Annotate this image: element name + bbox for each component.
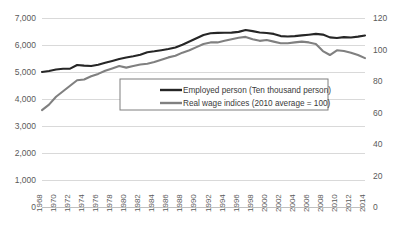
- right-axis-tick-label: 40: [373, 139, 383, 149]
- x-axis-tick-label: 2004: [288, 194, 297, 212]
- left-axis-tick-label: 5,000: [15, 67, 37, 77]
- x-axis-tick-label: 1996: [232, 194, 241, 212]
- right-axis-tick-label: 120: [373, 13, 387, 23]
- dual-axis-line-chart: 01,0002,0003,0004,0005,0006,0007,000 020…: [0, 0, 406, 245]
- legend-label: Employed person (Ten thousand person): [183, 86, 331, 95]
- right-axis-tick-label: 80: [373, 76, 383, 86]
- x-axis-tick-label: 1988: [175, 194, 184, 212]
- left-axis-tick-label: 3,000: [15, 121, 37, 131]
- left-axis-tick-label: 4,000: [15, 94, 37, 104]
- x-axis-tick-label: 2014: [358, 194, 367, 212]
- x-axis-tick-label: 1986: [161, 194, 170, 212]
- left-axis-tick-label: 7,000: [15, 13, 37, 23]
- x-axis-tick-label: 1970: [49, 194, 58, 212]
- right-axis-tick-labels: 020406080100120: [373, 13, 387, 212]
- chart-canvas: 01,0002,0003,0004,0005,0006,0007,000 020…: [0, 0, 406, 245]
- x-axis-tick-label: 1980: [119, 194, 128, 212]
- right-axis-tick-label: 60: [373, 108, 383, 118]
- left-axis-tick-label: 1,000: [15, 175, 37, 185]
- x-axis-tick-label: 1992: [204, 194, 213, 212]
- legend-label: Real wage indices (2010 average = 100): [183, 99, 331, 108]
- x-axis-tick-label: 1998: [246, 194, 255, 212]
- x-axis-tick-label: 2000: [260, 194, 269, 212]
- x-axis-tick-label: 1978: [105, 194, 114, 212]
- x-axis-tick-label: 2006: [302, 194, 311, 212]
- left-axis-tick-label: 2,000: [15, 148, 37, 158]
- x-axis-tick-label: 2010: [330, 194, 339, 212]
- x-axis-tick-label: 2012: [344, 194, 353, 212]
- x-axis-tick-label: 1972: [63, 194, 72, 212]
- x-axis-tick-label: 1968: [35, 194, 44, 212]
- right-axis-tick-label: 100: [373, 45, 387, 55]
- x-axis-tick-label: 1994: [218, 194, 227, 212]
- x-axis-tick-label: 2002: [274, 194, 283, 212]
- left-axis-tick-label: 6,000: [15, 40, 37, 50]
- x-axis-tick-label: 1974: [77, 194, 86, 212]
- right-axis-tick-label: 0: [373, 202, 378, 212]
- x-axis-tick-label: 1976: [91, 194, 100, 212]
- series-line: [42, 30, 365, 72]
- x-axis-tick-label: 1990: [189, 194, 198, 212]
- x-axis-tick-labels: 1968197019721974197619781980198219841986…: [35, 194, 367, 212]
- x-axis-tick-label: 2008: [316, 194, 325, 212]
- right-axis-tick-label: 20: [373, 171, 383, 181]
- gridlines: [42, 18, 365, 207]
- x-axis-tick-label: 1984: [147, 194, 156, 212]
- chart-legend: Employed person (Ten thousand person)Rea…: [120, 79, 331, 110]
- x-axis-tick-label: 1982: [133, 194, 142, 212]
- left-axis-tick-labels: 01,0002,0003,0004,0005,0006,0007,000: [15, 13, 37, 212]
